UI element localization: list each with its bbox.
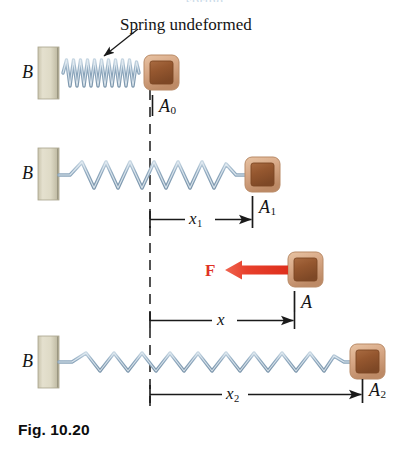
block-label-a-free: A (301, 293, 313, 313)
block-label-a0: A0 (159, 97, 176, 117)
row-force (150, 252, 323, 329)
dimension-label-x: x (217, 311, 225, 330)
row-stretched-2 (38, 336, 385, 403)
figure-caption: Fig. 10.20 (18, 421, 90, 439)
block-a0 (144, 55, 179, 90)
force-label-f: F (205, 262, 215, 279)
wall-support-2 (38, 148, 59, 200)
spring-stretched-1 (59, 162, 246, 188)
dimension-label-x1: x1 (189, 210, 202, 229)
spring-stretched-2 (59, 353, 352, 371)
figure-10-20: spring (0, 0, 399, 449)
dimension-label-x2: x2 (226, 385, 239, 404)
block-a2 (350, 344, 385, 379)
wall-label-b-1: B (22, 63, 33, 81)
annotation-spring-undeformed: Spring undeformed (120, 16, 252, 33)
wall-label-b-2: B (22, 164, 33, 182)
dimension-x2 (150, 385, 362, 403)
row-stretched-1 (38, 148, 280, 228)
block-a-free (288, 252, 323, 287)
row-undeformed (38, 29, 179, 116)
force-arrow (225, 261, 288, 280)
wall-support-1 (38, 47, 59, 99)
wall-support-3 (38, 336, 59, 388)
block-a1 (245, 157, 280, 192)
block-label-a1: A1 (259, 198, 276, 218)
spring-undeformed (59, 60, 145, 86)
block-label-a2: A2 (369, 381, 386, 401)
wall-label-b-3: B (22, 352, 33, 370)
